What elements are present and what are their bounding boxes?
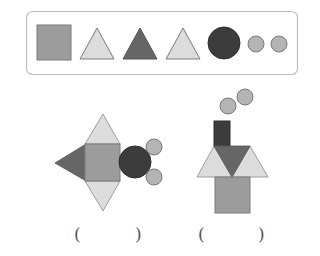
small-circle-shape bbox=[248, 36, 264, 52]
fish-answer-close-paren: ) bbox=[135, 224, 142, 244]
house-figure bbox=[197, 89, 268, 213]
chimney-rect bbox=[214, 121, 230, 147]
fish-top-fin-triangle bbox=[85, 114, 120, 144]
fish-answer-blank[interactable] bbox=[84, 226, 132, 246]
fish-body-square bbox=[85, 144, 120, 181]
fish-bubble-circle-top bbox=[146, 139, 162, 155]
large-dark-circle-shape bbox=[208, 27, 240, 59]
house-body-square bbox=[215, 177, 250, 213]
square-shape bbox=[37, 25, 71, 60]
house-answer-open-paren: ( bbox=[198, 224, 205, 244]
fish-head-circle bbox=[119, 146, 151, 178]
house-answer-close-paren: ) bbox=[258, 224, 265, 244]
fish-figure bbox=[55, 114, 162, 211]
fish-bubble-circle-bottom bbox=[146, 169, 162, 185]
fish-tail-triangle bbox=[55, 144, 86, 181]
shape-legend-box bbox=[27, 12, 298, 75]
smoke-circle-high bbox=[237, 89, 253, 105]
house-answer-blank[interactable] bbox=[208, 226, 256, 246]
fish-answer-open-paren: ( bbox=[74, 224, 81, 244]
smoke-circle-low bbox=[220, 98, 236, 114]
fish-bottom-fin-triangle bbox=[85, 181, 120, 211]
small-circle-shape-2 bbox=[271, 36, 287, 52]
